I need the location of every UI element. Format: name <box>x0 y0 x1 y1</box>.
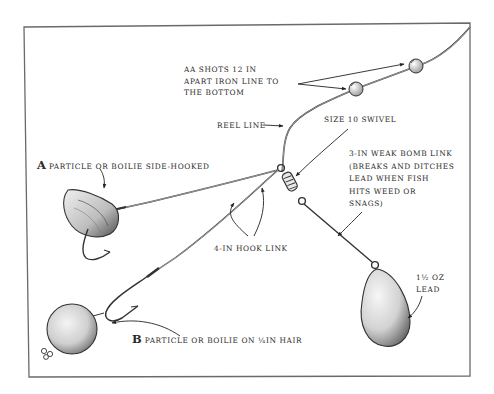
arrow-shot-2 <box>298 84 346 89</box>
label-reel-line: REEL LINE <box>217 120 266 132</box>
label-aa-shots: AA SHOTS 12 IN APART IRON LINE TO THE BO… <box>184 64 279 99</box>
label-bomb-link: 3-IN WEAK BOMB LINK (BREAKS AND DITCHES … <box>349 148 454 211</box>
arrow-bomb-link <box>338 212 362 236</box>
lead-weight <box>361 269 410 346</box>
swivel-ring-bottom <box>299 198 306 205</box>
label-hook-link: 4-IN HOOK LINK <box>214 243 288 255</box>
particle-a <box>64 190 119 237</box>
hook-b <box>106 276 148 321</box>
arrow-shot-1 <box>298 64 404 84</box>
arrow-reel-line <box>264 125 283 126</box>
label-swivel: SIZE 10 SWIVEL <box>324 114 396 126</box>
rig-diagram: AA SHOTS 12 IN APART IRON LINE TO THE BO… <box>0 0 494 394</box>
aa-shot-2 <box>349 82 363 96</box>
aa-shot-1 <box>409 59 423 73</box>
label-b-letter: B <box>132 332 142 346</box>
label-lead: 1½ OZ LEAD <box>416 272 444 295</box>
label-b-text: PARTICLE OR BOILIE ON ¼IN HAIR <box>145 336 302 345</box>
swivel-icon <box>281 171 299 192</box>
arrow-hook-link-2 <box>254 188 264 236</box>
label-boilie-b: BPARTICLE OR BOILIE ON ¼IN HAIR <box>132 334 302 347</box>
hair-stop-icon <box>41 348 52 359</box>
arrow-swivel <box>296 129 348 176</box>
swivel-ring-top <box>278 165 285 172</box>
boilie-b <box>47 304 97 354</box>
label-a-text: PARTICLE OR BOILIE SIDE-HOOKED <box>49 162 210 171</box>
label-a-letter: A <box>37 158 46 172</box>
arrow-hook-link-1 <box>230 203 248 236</box>
hook-link-a <box>118 170 278 209</box>
label-particle-a: APARTICLE OR BOILIE SIDE-HOOKED <box>37 160 210 173</box>
